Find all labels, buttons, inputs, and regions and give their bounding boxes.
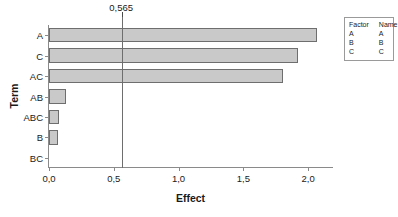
legend-name: B bbox=[371, 39, 398, 48]
legend-name: A bbox=[371, 30, 398, 39]
y-tick-ac bbox=[45, 76, 49, 77]
legend-name: C bbox=[371, 48, 398, 57]
reference-line bbox=[122, 15, 123, 168]
y-tick-label-ac: AC bbox=[30, 71, 43, 82]
y-tick-a bbox=[45, 35, 49, 36]
y-tick-ab bbox=[45, 97, 49, 98]
y-tick-label-a: A bbox=[37, 30, 43, 41]
bar-ab bbox=[49, 89, 66, 103]
reference-line-label: 0,565 bbox=[109, 2, 133, 13]
x-tick-2 bbox=[179, 167, 180, 171]
x-tick-label-4: 2,0 bbox=[301, 173, 314, 184]
x-tick-1 bbox=[114, 167, 115, 171]
y-tick-b bbox=[45, 137, 49, 138]
legend-header-factor: Factor bbox=[349, 21, 371, 30]
bar-a bbox=[49, 28, 317, 42]
legend-header-row: Factor Name bbox=[349, 21, 398, 30]
legend-factor: B bbox=[349, 39, 371, 48]
y-tick-label-c: C bbox=[36, 50, 43, 61]
bar-abc bbox=[49, 110, 59, 124]
legend-row: CC bbox=[349, 48, 398, 57]
bar-ac bbox=[49, 69, 283, 83]
x-tick-label-0: 0,0 bbox=[42, 173, 55, 184]
legend-table: Factor Name AABBCC bbox=[349, 21, 398, 57]
y-tick-label-abc: ABC bbox=[23, 111, 43, 122]
y-tick-bc bbox=[45, 158, 49, 159]
y-tick-abc bbox=[45, 117, 49, 118]
x-axis-title: Effect bbox=[48, 192, 333, 204]
pareto-chart: 0,565 Term ACACABABCBBC0,00,51,01,52,0 E… bbox=[0, 0, 398, 217]
legend-factor: A bbox=[349, 30, 371, 39]
legend-factor: C bbox=[349, 48, 371, 57]
legend-box: Factor Name AABBCC bbox=[344, 17, 394, 61]
x-tick-0 bbox=[49, 167, 50, 171]
reference-line-tick bbox=[122, 12, 123, 17]
bar-b bbox=[49, 130, 58, 144]
x-tick-3 bbox=[243, 167, 244, 171]
x-tick-label-2: 1,0 bbox=[172, 173, 185, 184]
plot-area: ACACABABCBBC0,00,51,01,52,0 bbox=[48, 25, 333, 168]
y-tick-label-bc: BC bbox=[30, 152, 43, 163]
x-tick-4 bbox=[308, 167, 309, 171]
x-tick-label-3: 1,5 bbox=[237, 173, 250, 184]
y-tick-label-ab: AB bbox=[30, 91, 43, 102]
x-tick-label-1: 0,5 bbox=[107, 173, 120, 184]
y-tick-label-b: B bbox=[37, 132, 43, 143]
y-axis-title: Term bbox=[8, 84, 20, 109]
legend-row: AA bbox=[349, 30, 398, 39]
legend-row: BB bbox=[349, 39, 398, 48]
y-tick-c bbox=[45, 56, 49, 57]
legend-header-name: Name bbox=[371, 21, 398, 30]
bar-c bbox=[49, 48, 298, 62]
